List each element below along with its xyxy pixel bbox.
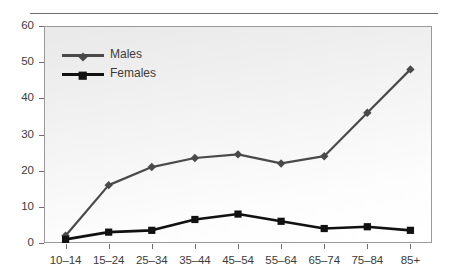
- series-layer: [0, 0, 467, 276]
- data-point-square-marker: [105, 229, 112, 236]
- data-point-square-marker: [321, 225, 328, 232]
- chart-figure: 0102030405060 10–1415–2425–3435–4445–545…: [0, 0, 467, 276]
- data-point-square-marker: [407, 227, 414, 234]
- legend-item-label: Males: [110, 47, 142, 61]
- data-point-diamond-marker: [148, 163, 156, 171]
- data-point-diamond-marker: [191, 154, 199, 162]
- data-point-diamond-marker: [277, 159, 285, 167]
- data-point-square-marker: [278, 218, 285, 225]
- series-line: [66, 214, 411, 239]
- data-point-diamond-marker: [234, 150, 242, 158]
- data-point-square-marker: [234, 210, 241, 217]
- legend-square-marker-icon: [77, 68, 89, 80]
- series-females: [62, 210, 414, 243]
- data-point-square-marker: [62, 236, 69, 243]
- legend-diamond-marker-icon: [77, 49, 89, 61]
- data-point-square-marker: [191, 216, 198, 223]
- data-point-square-marker: [364, 223, 371, 230]
- data-point-square-marker: [148, 227, 155, 234]
- legend-item-label: Females: [110, 66, 156, 80]
